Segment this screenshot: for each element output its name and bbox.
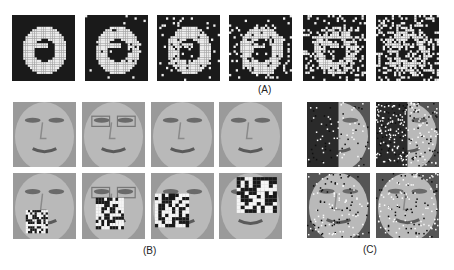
face-corrupted-2 xyxy=(376,102,439,167)
face-corrupted-1 xyxy=(307,102,370,167)
face-clean-4 xyxy=(219,102,282,167)
panel-c-label: (C) xyxy=(363,244,377,255)
digit-zero-tile-1 xyxy=(12,15,75,81)
face-occluded-3 xyxy=(151,173,214,239)
digit-zero-tile-5 xyxy=(303,15,366,81)
face-corrupted-4 xyxy=(376,173,439,238)
face-clean-2 xyxy=(82,102,145,167)
face-occluded-4 xyxy=(219,173,282,239)
digit-zero-tile-2 xyxy=(85,15,148,81)
digit-zero-tile-6 xyxy=(376,15,439,81)
face-occluded-1 xyxy=(13,173,76,239)
face-clean-3 xyxy=(151,102,214,167)
face-occluded-2 xyxy=(82,173,145,239)
face-clean-1 xyxy=(13,102,76,167)
digit-zero-tile-3 xyxy=(157,15,220,81)
panel-a-label: (A) xyxy=(258,84,271,95)
digit-zero-tile-4 xyxy=(229,15,292,81)
panel-b-label: (B) xyxy=(143,245,156,256)
face-corrupted-3 xyxy=(307,173,370,238)
